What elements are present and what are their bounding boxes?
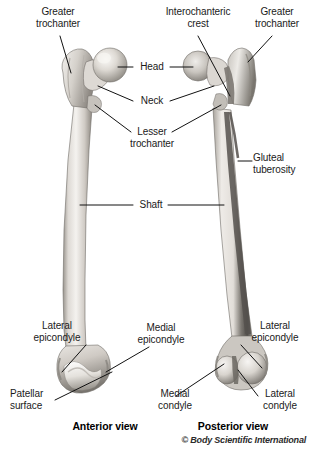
label-shaft: Shaft — [133, 199, 169, 211]
anterior-head — [93, 48, 127, 82]
anterior-lesser-trochanter — [87, 96, 102, 113]
label-medial-epicondyle: Medial epicondyle — [128, 322, 194, 345]
label-neck: Neck — [134, 95, 170, 107]
leader-medial-epicondyle — [106, 347, 149, 372]
copyright-credit: © Body Scientific International — [120, 435, 306, 445]
label-greater-trochanter-left: Greater trochanter — [18, 6, 98, 29]
label-lateral-condyle: Lateral condyle — [252, 388, 308, 411]
femur-figure: Greater trochanter Interochanteric crest… — [0, 0, 311, 454]
view-label-anterior: Anterior view — [40, 420, 170, 432]
leader-neck-left — [98, 86, 133, 101]
label-interochanteric-crest: Interochanteric crest — [152, 6, 244, 29]
label-head: Head — [134, 61, 170, 73]
label-greater-trochanter-right: Greater trochanter — [244, 6, 310, 29]
label-patellar-surface: Patellar surface — [10, 388, 68, 411]
anterior-shaft — [63, 104, 92, 350]
label-lateral-epicondyle-left: Lateral epicondyle — [24, 320, 90, 343]
label-gluteal-tuberosity: Gluteal tuberosity — [253, 152, 311, 175]
leader-greater-trochanter-right — [248, 36, 272, 62]
posterior-lesser-trochanter — [213, 94, 227, 111]
label-lateral-epicondyle-right: Lateral epicondyle — [242, 320, 308, 343]
label-lesser-trochanter: Lesser trochanter — [113, 126, 191, 149]
view-label-posterior: Posterior view — [168, 420, 298, 432]
label-medial-condyle: Medial condyle — [146, 388, 204, 411]
leader-neck-right — [170, 86, 214, 101]
